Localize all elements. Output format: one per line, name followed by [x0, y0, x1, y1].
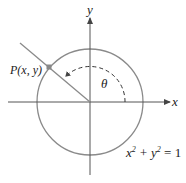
- unit-circle-diagram: y x P(x, y) θ x2 + y2 = 1: [0, 0, 186, 183]
- point-label: P(x, y): [10, 64, 42, 76]
- y-axis-label: y: [87, 3, 93, 16]
- angle-arc: [66, 66, 125, 102]
- point-p: [47, 65, 52, 70]
- x-axis-label: x: [172, 95, 178, 108]
- circle-equation: x2 + y2 = 1: [126, 146, 181, 159]
- angle-label: θ: [101, 77, 107, 90]
